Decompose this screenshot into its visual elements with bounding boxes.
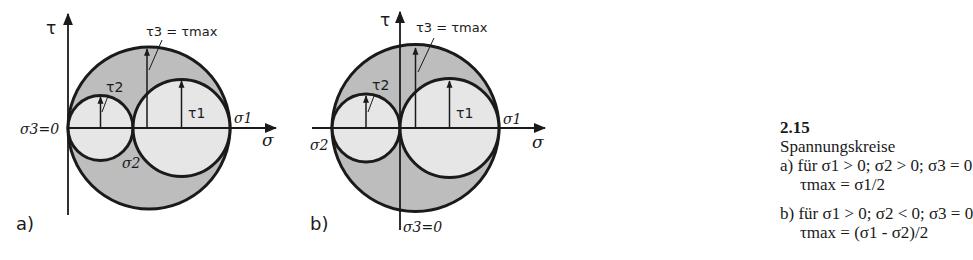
origin-label-a: σ3=0 <box>20 121 59 137</box>
caption-item-a-result: τmax = σ1/2 <box>780 175 973 194</box>
tau-axis-label-a: τ <box>46 18 56 38</box>
caption-item-b-label: b) <box>780 204 794 223</box>
diagram-b: τ σ σ3=0 σ1 σ2 τ1 τ2 τ3 = τmax b) <box>310 10 545 235</box>
caption-item-a-label: a) <box>780 156 793 175</box>
caption-item-b-result: τmax = (σ1 - σ2)/2 <box>780 223 973 242</box>
caption-item-b-condition: für σ1 > 0; σ2 < 0; σ3 = 0 <box>798 204 973 223</box>
caption-item-a: a) für σ1 > 0; σ2 > 0; σ3 = 0 <box>780 156 973 175</box>
tau1-label-b: τ1 <box>456 105 473 121</box>
sigma1-label-b: σ1 <box>503 111 521 127</box>
tau3-label-b: τ3 = τmax <box>416 20 488 35</box>
origin-label-b: σ3=0 <box>403 219 442 235</box>
sigma2-label-a: σ2 <box>122 155 141 171</box>
figure-caption: 2.15 Spannungskreise a) für σ1 > 0; σ2 >… <box>780 118 973 242</box>
figure-title: Spannungskreise <box>780 137 973 156</box>
tau3-label-a: τ3 = τmax <box>146 24 218 39</box>
tau2-label-b: τ2 <box>372 77 389 93</box>
diagram-a: τ σ σ3=0 σ1 σ2 τ1 τ2 τ3 = τmax a) <box>16 14 276 234</box>
tau1-label-a: τ1 <box>188 105 205 121</box>
tau-axis-label-b: τ <box>380 10 390 30</box>
caption-item-b: b) für σ1 > 0; σ2 < 0; σ3 = 0 <box>780 204 973 223</box>
panel-label-b: b) <box>310 213 328 234</box>
figure-number: 2.15 <box>780 118 973 137</box>
sigma-axis-label-a: σ <box>262 130 274 150</box>
tau2-label-a: τ2 <box>106 79 123 95</box>
sigma-axis-label-b: σ <box>532 132 544 152</box>
sigma1-label-a: σ1 <box>234 110 252 126</box>
panel-label-a: a) <box>16 213 34 234</box>
sigma2-label-b: σ2 <box>310 137 329 153</box>
caption-item-a-condition: für σ1 > 0; σ2 > 0; σ3 = 0 <box>797 156 972 175</box>
